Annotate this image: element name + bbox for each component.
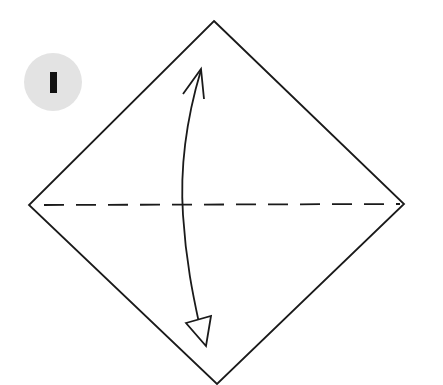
diagram-canvas — [0, 0, 443, 385]
valley-fold-line — [44, 204, 400, 205]
unfold-arrowhead-icon — [186, 316, 211, 346]
fold-arrow-curve — [182, 70, 201, 323]
origami-diagram: 1 — [0, 0, 443, 385]
paper-square — [29, 21, 404, 384]
